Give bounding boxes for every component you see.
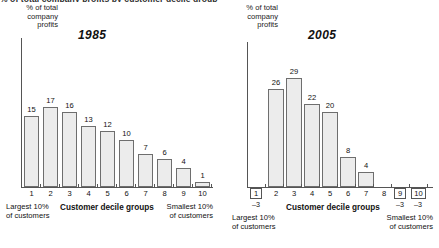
bar-6 bbox=[119, 140, 134, 187]
x-label-5: 5 bbox=[322, 189, 338, 198]
bar-2 bbox=[43, 107, 58, 187]
x-tick-5 bbox=[319, 184, 320, 187]
x-tick-7 bbox=[135, 184, 136, 187]
x-label-3: 3 bbox=[62, 189, 77, 198]
x-label-10: 10 bbox=[195, 189, 210, 198]
x-tick-3 bbox=[283, 184, 284, 187]
x-label-7: 7 bbox=[358, 189, 374, 198]
x-label-1: 1 bbox=[250, 188, 262, 199]
right-note-1985: Smallest 10% of customers bbox=[151, 202, 213, 221]
left-note-2005: Largest 10% of customers bbox=[232, 213, 275, 232]
bar-value-2: 26 bbox=[268, 78, 284, 87]
bar-value-5: 12 bbox=[100, 120, 115, 129]
bar-value-6: 8 bbox=[340, 146, 356, 155]
bar-5 bbox=[100, 131, 115, 187]
bar-9 bbox=[176, 168, 191, 187]
x-tick-6 bbox=[116, 184, 117, 187]
x-label-10: 10 bbox=[411, 188, 426, 199]
bar-value-10: 1 bbox=[195, 171, 210, 180]
x-label-3: 3 bbox=[286, 189, 302, 198]
bar-value-2: 17 bbox=[43, 96, 58, 105]
x-tick-3 bbox=[59, 184, 60, 187]
bar-value-3: 16 bbox=[62, 101, 77, 110]
bar-value-8: 6 bbox=[157, 148, 172, 157]
x-tick-10 bbox=[192, 184, 193, 187]
x-label-9: 9 bbox=[176, 189, 191, 198]
x-tick-11 bbox=[211, 184, 212, 187]
x-tick-8 bbox=[373, 184, 374, 187]
bar-4 bbox=[81, 126, 96, 187]
x-label-8: 8 bbox=[157, 189, 172, 198]
bar-7 bbox=[358, 172, 374, 187]
x-label-4: 4 bbox=[304, 189, 320, 198]
chart-panel-1985: % of total company profits 1985 15 17 16… bbox=[0, 0, 219, 248]
x-tick-8 bbox=[154, 184, 155, 187]
left-note-line-1: Largest 10% bbox=[232, 213, 275, 222]
x-label-2: 2 bbox=[268, 189, 284, 198]
x-tick-11 bbox=[427, 184, 428, 187]
x-axis-title-2005: Customer decile groups bbox=[286, 203, 380, 212]
left-note-line-1: Largest 10% bbox=[6, 202, 49, 211]
bar-8 bbox=[157, 159, 172, 187]
y-axis-line bbox=[21, 38, 22, 187]
bar-6 bbox=[340, 157, 356, 187]
bar-value-3: 29 bbox=[286, 67, 302, 76]
x-axis-title-1985: Customer decile groups bbox=[60, 203, 154, 212]
x-label-2: 2 bbox=[43, 189, 58, 198]
x-tick-9 bbox=[391, 184, 392, 187]
x-label-8: 8 bbox=[376, 189, 392, 198]
x-label-6: 6 bbox=[340, 189, 356, 198]
chart-panel-2005: % of total company profits 2005 26 29 22… bbox=[220, 0, 439, 248]
x-tick-2 bbox=[265, 184, 266, 187]
x-label-9: 9 bbox=[394, 188, 406, 199]
x-tick-10 bbox=[409, 184, 410, 187]
bar-3 bbox=[62, 112, 77, 187]
bar-2 bbox=[268, 89, 284, 187]
right-note-2005: Smallest 10% of customers bbox=[371, 213, 433, 232]
bar-5 bbox=[322, 112, 338, 187]
x-tick-2 bbox=[40, 184, 41, 187]
x-label-5: 5 bbox=[100, 189, 115, 198]
x-tick-5 bbox=[97, 184, 98, 187]
x-tick-1 bbox=[247, 184, 248, 187]
bar-value-5: 20 bbox=[322, 101, 338, 110]
right-note-line-2: of customers bbox=[151, 211, 213, 220]
bar-value-6: 10 bbox=[119, 129, 134, 138]
neg-value-10: –3 bbox=[410, 200, 426, 209]
y-axis-line bbox=[247, 42, 248, 187]
bar-3 bbox=[286, 78, 302, 187]
x-label-4: 4 bbox=[81, 189, 96, 198]
bar-value-7: 7 bbox=[138, 143, 153, 152]
right-note-line-1: Smallest 10% bbox=[371, 213, 433, 222]
left-note-line-2: of customers bbox=[6, 211, 49, 220]
bar-value-9: 4 bbox=[176, 157, 191, 166]
right-note-line-2: of customers bbox=[371, 222, 433, 231]
x-label-6: 6 bbox=[119, 189, 134, 198]
x-tick-9 bbox=[173, 184, 174, 187]
x-tick-4 bbox=[301, 184, 302, 187]
right-note-line-1: Smallest 10% bbox=[151, 202, 213, 211]
bar-1 bbox=[24, 116, 39, 187]
bar-value-4: 13 bbox=[81, 115, 96, 124]
left-note-1985: Largest 10% of customers bbox=[6, 202, 49, 221]
x-axis-line bbox=[21, 187, 213, 188]
bar-value-1: 15 bbox=[24, 105, 39, 114]
bar-value-4: 22 bbox=[304, 93, 320, 102]
neg-value-1: –3 bbox=[248, 200, 264, 209]
x-label-1: 1 bbox=[24, 189, 39, 198]
x-label-7: 7 bbox=[138, 189, 153, 198]
bar-value-7: 4 bbox=[358, 161, 374, 170]
x-tick-7 bbox=[355, 184, 356, 187]
x-tick-1 bbox=[21, 184, 22, 187]
bar-10 bbox=[195, 182, 210, 187]
bar-4 bbox=[304, 104, 320, 187]
x-tick-4 bbox=[78, 184, 79, 187]
left-note-line-2: of customers bbox=[232, 222, 275, 231]
x-tick-6 bbox=[337, 184, 338, 187]
bar-7 bbox=[138, 154, 153, 187]
neg-value-9: –3 bbox=[392, 200, 408, 209]
